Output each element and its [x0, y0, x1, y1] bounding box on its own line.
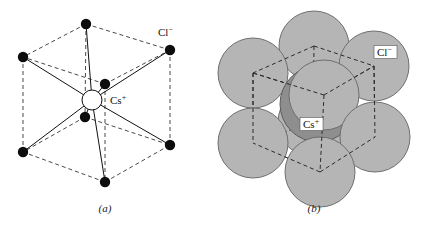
- charge-superscript: −: [168, 25, 173, 34]
- chloride-ion-dot: [80, 112, 90, 122]
- panel-a-caption: (a): [99, 202, 112, 215]
- cesium-ion-circle: [82, 90, 102, 110]
- chloride-ion-dot: [18, 147, 28, 157]
- chloride-ion-dot: [165, 140, 175, 150]
- chloride-ion-dot: [81, 19, 91, 29]
- charge-superscript: +: [122, 93, 127, 102]
- chloride-ion-dot: [18, 52, 28, 62]
- charge-superscript: −: [387, 45, 392, 54]
- chloride-ion-dot: [165, 45, 175, 55]
- charge-superscript: +: [315, 117, 320, 126]
- cscl-structure-figure: Cl−Cs+ (a) Cl−Cs+ (b): [0, 0, 424, 227]
- cesium-ion-a: [82, 90, 102, 110]
- chloride-ion-dot: [100, 79, 110, 89]
- panel-b-caption: (b): [308, 202, 321, 215]
- chloride-ion-dot: [100, 177, 110, 187]
